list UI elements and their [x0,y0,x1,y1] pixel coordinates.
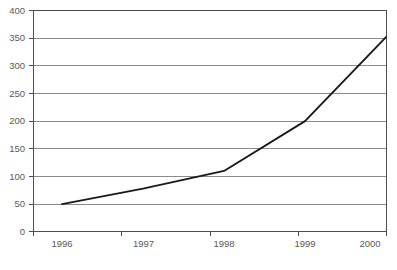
y-axis-labels: 400 350 300 250 200 150 100 50 0 [9,5,25,237]
y-label-200: 200 [9,115,25,126]
x-axis-labels: 1996 1997 1998 1999 2000 [51,238,380,249]
y-label-150: 150 [9,143,25,154]
y-label-0: 0 [20,226,25,237]
y-label-50: 50 [14,198,25,209]
y-label-250: 250 [9,88,25,99]
x-tick-marks [34,232,387,236]
x-label-1996: 1996 [51,238,72,249]
y-label-400: 400 [9,5,25,16]
chart-canvas: 400 350 300 250 200 150 100 50 0 1996 19… [0,0,397,270]
y-label-300: 300 [9,60,25,71]
x-label-1999: 1999 [294,238,315,249]
x-label-1997: 1997 [133,238,154,249]
x-label-2000: 2000 [359,238,380,249]
line-chart: 400 350 300 250 200 150 100 50 0 1996 19… [0,0,397,270]
y-tick-marks [29,11,33,232]
x-label-1998: 1998 [213,238,234,249]
y-label-350: 350 [9,32,25,43]
y-label-100: 100 [9,171,25,182]
